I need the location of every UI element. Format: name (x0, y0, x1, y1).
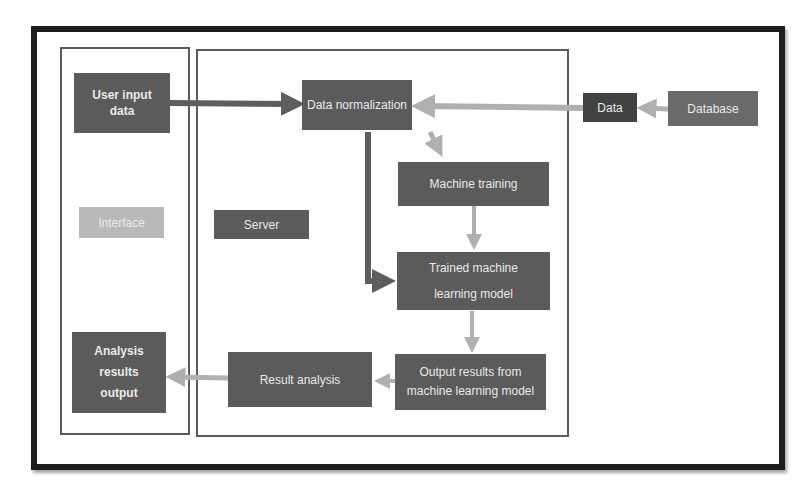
server-label-box: Server (214, 210, 309, 239)
user-input-data-box: User input data (74, 73, 170, 133)
arrow-normalization-to-training (430, 132, 439, 150)
server-label: Server (244, 217, 279, 233)
interface-label: Interface (98, 215, 145, 231)
analysis-results-output-label: Analysis results output (86, 341, 152, 404)
data-label: Data (597, 100, 622, 116)
trained-model-box: Trained machine learning model (397, 252, 550, 310)
trained-model-label: Trained machine learning model (419, 255, 528, 307)
arrow-normalization-to-model (368, 132, 387, 281)
data-normalization-label: Data normalization (307, 97, 407, 113)
data-normalization-box: Data normalization (302, 80, 412, 130)
machine-training-label: Machine training (429, 176, 517, 192)
arrow-input-to-normalization (170, 103, 296, 104)
arrow-analysis-to-output (173, 377, 228, 378)
machine-training-box: Machine training (398, 162, 549, 206)
database-box: Database (668, 91, 758, 126)
database-label: Database (687, 101, 738, 117)
result-analysis-box: Result analysis (228, 352, 372, 407)
output-results-box: Output results from machine learning mod… (395, 354, 546, 410)
arrow-database-to-data (644, 108, 668, 109)
analysis-results-output-box: Analysis results output (72, 332, 166, 413)
output-results-label: Output results from machine learning mod… (397, 363, 544, 401)
interface-label-box: Interface (79, 207, 164, 238)
arrow-data-to-normalization (420, 106, 583, 108)
user-input-data-label: User input data (84, 87, 160, 119)
result-analysis-label: Result analysis (260, 372, 341, 388)
data-box: Data (583, 93, 637, 122)
